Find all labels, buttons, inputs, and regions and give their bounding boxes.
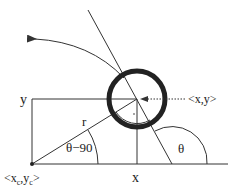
theta-label: θ (178, 141, 184, 156)
theta-minus-90-label: θ−90 (66, 140, 93, 155)
center-label: <xc,yc> (4, 171, 40, 187)
motion-arrow (35, 39, 124, 78)
x-label: x (132, 170, 139, 185)
y-label: y (20, 92, 27, 107)
robot-geometry-diagram: y x r θ−90 θ <x,y> <xc,yc> (0, 0, 238, 192)
center-dot (30, 162, 34, 166)
diagram-canvas: y x r θ−90 θ <x,y> <xc,yc> (0, 0, 238, 192)
heading-line (88, 10, 172, 164)
point-label: <x,y> (188, 92, 217, 106)
r-label: r (82, 114, 87, 129)
